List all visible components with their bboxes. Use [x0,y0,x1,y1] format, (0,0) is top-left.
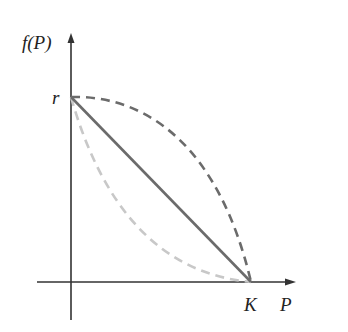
y-intercept-label: r [52,88,59,107]
growth-rate-diagram [0,0,348,332]
x-axis-label: P [280,295,292,314]
x-axis-arrow-icon [285,279,296,286]
y-axis-arrow-icon [68,33,75,43]
y-axis-label: f(P) [22,33,52,52]
x-intercept-label: K [244,295,257,314]
